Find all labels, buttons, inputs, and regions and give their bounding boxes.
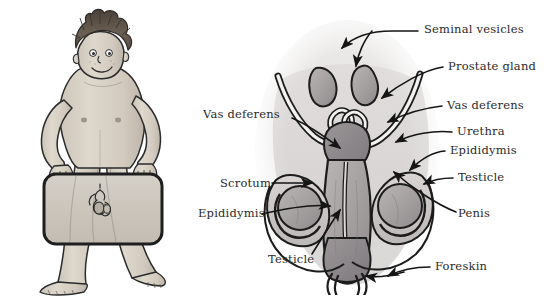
- penis-structure: [323, 160, 371, 284]
- label-vas-deferens-left: Vas deferens: [203, 109, 280, 121]
- label-epididymis-left: Epididymis: [198, 208, 265, 220]
- label-testicle-left: Testicle: [268, 254, 314, 266]
- boy-head: [72, 9, 132, 78]
- label-prostate-gland: Prostate gland: [448, 61, 536, 73]
- label-scrotum: Scrotum: [220, 178, 271, 190]
- boy-figure-svg: [14, 8, 194, 296]
- label-penis: Penis: [458, 208, 490, 220]
- illustration-page: Seminal vesicles Prostate gland Vas defe…: [0, 0, 548, 304]
- label-foreskin: Foreskin: [435, 261, 487, 273]
- label-epididymis-right: Epididymis: [450, 145, 517, 157]
- label-vas-deferens-right: Vas deferens: [447, 100, 524, 112]
- boy-illustration: [14, 8, 194, 296]
- label-testicle-right: Testicle: [458, 172, 504, 184]
- boy-torso: [59, 64, 144, 168]
- boy-held-panel: [44, 174, 162, 244]
- label-urethra: Urethra: [457, 126, 505, 138]
- label-seminal-vesicles: Seminal vesicles: [424, 24, 524, 36]
